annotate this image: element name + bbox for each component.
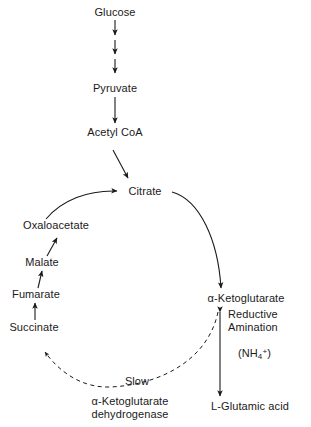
node-alpha-ketoglutarate: α-Ketoglutarate (208, 292, 285, 305)
arrow-malate-oxaloacetate (47, 238, 57, 256)
annotation-ammonium: (NH4+) (238, 345, 271, 363)
annotation-reductive: Reductive (228, 308, 278, 321)
node-oxaloacetate: Oxaloacetate (23, 219, 89, 232)
node-citrate: Citrate (128, 185, 161, 198)
node-fumarate: Fumarate (12, 288, 60, 301)
annotation-amination: Amination (228, 321, 278, 334)
annotation-slow: Slow (125, 375, 149, 388)
node-malate: Malate (25, 256, 59, 269)
pathway-diagram: Glucose Pyruvate Acetyl CoA Citrate Oxal… (0, 0, 311, 427)
ammonium-close: ) (267, 347, 271, 359)
annotation-enzyme: α-Ketoglutarate dehydrogenase (65, 395, 195, 421)
enzyme-name-line-2: dehydrogenase (65, 408, 195, 421)
arrow-acetylcoa-citrate (113, 150, 128, 178)
node-acetyl-coa: Acetyl CoA (87, 126, 142, 139)
node-pyruvate: Pyruvate (93, 82, 137, 95)
arrow-fumarate-malate (38, 271, 42, 288)
arc-citrate-ketoglutarate (172, 192, 221, 288)
enzyme-name-line-1: α-Ketoglutarate (65, 395, 195, 408)
node-l-glutamic-acid: L-Glutamic acid (211, 400, 289, 413)
ammonium-open: (NH (238, 347, 258, 359)
node-succinate: Succinate (9, 321, 58, 334)
node-glucose: Glucose (94, 6, 135, 19)
arc-oxaloacetate-citrate (46, 191, 117, 219)
